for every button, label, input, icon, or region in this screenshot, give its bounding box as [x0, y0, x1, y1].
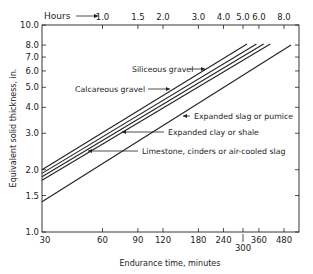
series-annotation: Expanded clay or shale [168, 128, 259, 137]
arrowhead-icon [166, 87, 170, 91]
fire-endurance-chart: 1.01.52.03.04.05.06.07.08.010.0 30609012… [0, 0, 313, 274]
x-tick-label: 30 [40, 235, 51, 245]
x-tick-label: 240 [215, 235, 231, 245]
top-tick-label: 3.0 [192, 12, 206, 22]
x-tick-label: 360 [251, 235, 267, 245]
y-tick-label: 10.0 [20, 20, 39, 30]
top-tick-label: 5.0 [236, 12, 250, 22]
series-annotation: Siliceous gravel [132, 65, 193, 74]
arrowhead-icon [183, 114, 187, 118]
x-tick-label: 480 [276, 235, 292, 245]
top-axis-label: Hours [44, 11, 71, 21]
y-tick-label: 8.0 [25, 40, 39, 50]
x-axis-label: Endurance time, minutes [120, 259, 221, 268]
y-tick-label: 6.0 [25, 66, 39, 76]
y-tick-label: 1.5 [25, 191, 39, 201]
top-axis-ticks: 1.01.52.03.04.05.06.08.0 [96, 12, 291, 29]
y-tick-label: 4.0 [25, 102, 39, 112]
y-tick-label: 5.0 [25, 82, 39, 92]
x-tick-label: 120 [155, 235, 171, 245]
series-annotation: Calcareous gravel [75, 85, 145, 94]
top-tick-label: 2.0 [156, 12, 170, 22]
x-tick-label: 300 [235, 243, 251, 253]
y-tick-label: 3.0 [25, 128, 39, 138]
x-tick-label: 90 [132, 235, 143, 245]
y-tick-label: 7.0 [25, 52, 39, 62]
top-tick-label: 1.0 [96, 12, 110, 22]
top-tick-label: 8.0 [277, 12, 291, 22]
annotations: Siliceous gravelCalcareous gravelExpande… [75, 65, 293, 156]
top-tick-label: 1.5 [131, 12, 145, 22]
series-line [42, 44, 264, 177]
y-axis-label: Equivalent solid thickness, in. [9, 69, 18, 188]
y-tick-label: 2.0 [25, 165, 39, 175]
y-tick-label: 1.0 [25, 227, 39, 237]
x-tick-label: 60 [97, 235, 108, 245]
x-tick-label: 180 [190, 235, 206, 245]
series-annotation: Limestone, cinders or air-cooled slag [142, 147, 286, 156]
top-tick-label: 4.0 [217, 12, 231, 22]
top-tick-label: 6.0 [252, 12, 266, 22]
series-annotation: Expanded slag or pumice [194, 112, 293, 121]
